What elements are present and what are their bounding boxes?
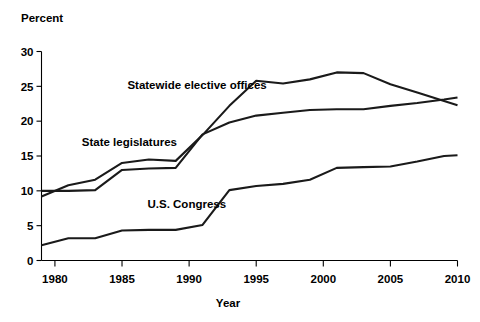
series-label: State legislatures	[82, 136, 177, 148]
x-tick-label: 1980	[42, 273, 68, 285]
x-tick-label: 1990	[176, 273, 202, 285]
y-tick-label: 15	[21, 150, 34, 162]
y-axis-title: Percent	[21, 12, 63, 24]
series-label: Statewide elective offices	[127, 79, 266, 91]
series-line	[42, 155, 458, 245]
y-tick-label: 0	[27, 255, 33, 267]
series-annotations: Statewide elective officesState legislat…	[82, 79, 267, 209]
y-tick-label: 25	[21, 81, 34, 93]
y-axis-tick-labels: 051015202530	[21, 46, 34, 267]
y-axis	[37, 52, 42, 261]
series-lines	[42, 72, 458, 245]
x-tick-label: 2010	[445, 273, 471, 285]
x-tick-label: 1995	[243, 273, 269, 285]
y-tick-label: 5	[27, 220, 34, 232]
y-tick-label: 20	[21, 115, 34, 127]
line-chart: Percent 051015202530 1980198519901995200…	[0, 0, 480, 322]
x-axis-tick-labels: 1980198519901995200020052010	[42, 273, 470, 285]
x-tick-label: 1985	[109, 273, 135, 285]
x-axis-title: Year	[216, 297, 241, 309]
y-tick-label: 10	[21, 185, 34, 197]
y-tick-label: 30	[21, 46, 34, 58]
series-label: U.S. Congress	[148, 198, 227, 210]
x-tick-label: 2000	[311, 273, 337, 285]
chart-canvas: Percent 051015202530 1980198519901995200…	[0, 0, 480, 322]
x-axis	[42, 261, 458, 267]
x-tick-label: 2005	[378, 273, 404, 285]
